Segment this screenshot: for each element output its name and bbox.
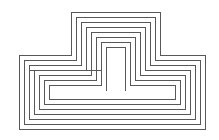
figure-canvas <box>0 0 219 140</box>
labyrinth-drawing <box>0 0 219 140</box>
